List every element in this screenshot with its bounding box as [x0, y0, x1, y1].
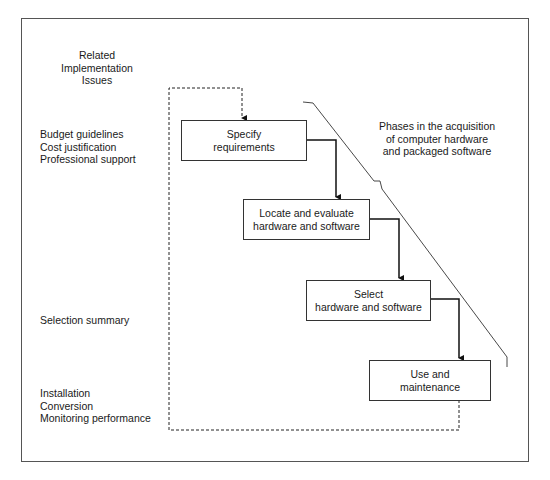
- issue-item: Installation: [40, 387, 151, 400]
- phase-label: hardware and software: [315, 301, 422, 314]
- phases-label-line: of computer hardware: [367, 133, 507, 146]
- phase-label: hardware and software: [253, 220, 360, 233]
- issues-group-requirements: Budget guidelines Cost justification Pro…: [40, 128, 136, 166]
- issues-group-use: Installation Conversion Monitoring perfo…: [40, 387, 151, 425]
- related-issues-heading: Related Implementation Issues: [52, 49, 142, 87]
- arrow-specify-to-locate: [306, 140, 336, 197]
- issue-item: Conversion: [40, 400, 151, 413]
- phase-label: requirements: [213, 141, 274, 154]
- phases-label-line: and packaged software: [367, 145, 507, 158]
- phase-label: maintenance: [400, 381, 460, 394]
- issue-item: Selection summary: [40, 314, 129, 327]
- phases-label: Phases in the acquisition of computer ha…: [367, 120, 507, 158]
- heading-line: Issues: [52, 74, 142, 87]
- phase-label: Locate and evaluate: [259, 207, 354, 220]
- heading-line: Related: [52, 49, 142, 62]
- issue-item: Professional support: [40, 153, 136, 166]
- phase-label: Select: [354, 288, 383, 301]
- arrow-locate-to-select: [369, 219, 399, 278]
- phase-box-locate-evaluate: Locate and evaluate hardware and softwar…: [243, 199, 370, 240]
- phases-label-line: Phases in the acquisition: [367, 120, 507, 133]
- phase-label: Specify: [227, 128, 261, 141]
- issue-item: Budget guidelines: [40, 128, 136, 141]
- issue-item: Cost justification: [40, 141, 136, 154]
- phase-label: Use and: [410, 368, 449, 381]
- issues-group-selection: Selection summary: [40, 314, 129, 327]
- phase-box-specify-requirements: Specify requirements: [181, 120, 307, 161]
- heading-line: Implementation: [52, 62, 142, 75]
- phase-box-use-maintenance: Use and maintenance: [369, 360, 491, 401]
- phase-box-select: Select hardware and software: [306, 280, 431, 321]
- arrow-select-to-use: [430, 299, 459, 358]
- issue-item: Monitoring performance: [40, 412, 151, 425]
